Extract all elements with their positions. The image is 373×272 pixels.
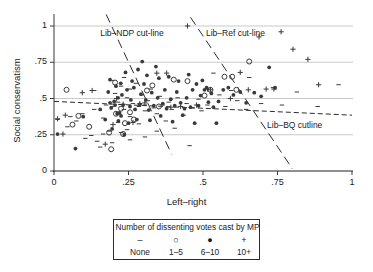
marker-dot xyxy=(119,81,123,85)
marker-dot xyxy=(191,88,195,92)
marker-dot xyxy=(119,114,123,118)
marker-dot xyxy=(147,108,151,112)
marker-dot xyxy=(252,91,256,95)
marker-dot xyxy=(193,121,197,125)
marker-dot xyxy=(112,100,116,104)
marker-dot xyxy=(244,101,248,105)
marker-dot xyxy=(113,103,117,107)
marker-dot xyxy=(185,96,189,100)
marker-dot xyxy=(163,88,167,92)
marker-dot xyxy=(169,97,173,101)
marker-dot xyxy=(108,78,112,82)
legend-entry: ●6–10 xyxy=(192,234,228,258)
marker-dot xyxy=(56,132,60,136)
marker-dot xyxy=(122,133,126,137)
marker-dot xyxy=(98,107,102,111)
reference-line-label: Lib–Ref cut-line xyxy=(206,28,265,38)
x-tick-label: .25 xyxy=(114,177,144,187)
marker-dot xyxy=(128,105,132,109)
x-tick-label: .75 xyxy=(263,177,293,187)
marker-dot xyxy=(129,98,133,102)
legend-symbol: ● xyxy=(192,234,228,246)
axis-ticks xyxy=(50,26,352,175)
marker-dot xyxy=(154,65,158,69)
reference-line-label: Lib–BQ cutline xyxy=(267,120,322,130)
marker-dot xyxy=(157,76,161,80)
marker-dot xyxy=(217,100,221,104)
y-tick-label: 1 xyxy=(21,20,47,30)
x-tick-label: .5 xyxy=(188,177,218,187)
y-tick-label: 0 xyxy=(21,165,47,175)
legend: Number of dissenting votes cast by MP –N… xyxy=(113,219,260,260)
marker-dot xyxy=(114,84,118,88)
marker-circle xyxy=(185,79,190,84)
y-tick-label: .75 xyxy=(21,56,47,66)
marker-dot xyxy=(215,121,219,125)
marker-dot xyxy=(175,90,179,94)
marker-dot xyxy=(259,94,263,98)
marker-dot xyxy=(201,78,205,82)
y-axis-title: Social conservatism xyxy=(11,41,22,161)
marker-dot xyxy=(125,88,129,92)
marker-circle xyxy=(64,87,69,92)
marker-dot xyxy=(267,65,271,69)
marker-dot xyxy=(238,90,242,94)
marker-dot xyxy=(116,119,120,123)
legend-title: Number of dissenting votes cast by MP xyxy=(114,222,261,232)
marker-dot xyxy=(152,104,156,108)
marker-circle xyxy=(234,87,239,92)
marker-dot xyxy=(161,102,165,106)
marker-dot xyxy=(136,68,140,72)
y-tick-label: .25 xyxy=(21,129,47,139)
marker-dot xyxy=(197,104,201,108)
marker-circle xyxy=(171,77,176,82)
marker-dot xyxy=(140,60,144,64)
marker-dot xyxy=(231,93,235,97)
scatter-plot-figure: Social conservatism Left–right 0.25.5.75… xyxy=(0,0,373,272)
marker-circle xyxy=(247,59,252,64)
x-axis-title: Left–right xyxy=(0,196,373,207)
data-markers xyxy=(55,23,341,151)
legend-symbol: – xyxy=(122,234,158,246)
marker-dot xyxy=(156,96,160,100)
marker-dot xyxy=(171,120,175,124)
y-tick-label: .5 xyxy=(21,93,47,103)
marker-circle xyxy=(113,80,118,85)
marker-dot xyxy=(148,118,152,122)
marker-circle xyxy=(144,88,149,93)
marker-dot xyxy=(181,113,185,117)
marker-dot xyxy=(195,82,199,86)
marker-circle xyxy=(127,110,132,115)
legend-entry: +10+ xyxy=(226,234,262,258)
marker-circle xyxy=(70,122,75,127)
legend-label: 10+ xyxy=(226,246,262,258)
marker-dot xyxy=(108,101,112,105)
marker-dot xyxy=(145,73,149,77)
marker-dot xyxy=(177,79,181,83)
reference-lines xyxy=(54,14,352,168)
marker-dot xyxy=(150,91,154,95)
marker-dot xyxy=(189,105,193,109)
marker-dot xyxy=(183,107,187,111)
marker-dot xyxy=(130,79,134,83)
x-tick-label: 1 xyxy=(337,177,367,187)
marker-circle xyxy=(222,74,227,79)
legend-symbol: ○ xyxy=(158,234,194,246)
marker-circle xyxy=(202,93,207,98)
marker-dot xyxy=(120,93,124,97)
legend-symbol: + xyxy=(226,234,262,246)
marker-circle xyxy=(109,147,114,152)
marker-dot xyxy=(133,107,137,111)
marker-dot xyxy=(165,107,169,111)
legend-label: 6–10 xyxy=(192,246,228,258)
legend-label: 1–5 xyxy=(158,246,194,258)
marker-circle xyxy=(150,83,155,88)
marker-dot xyxy=(139,92,143,96)
marker-dot xyxy=(103,118,107,122)
marker-dot xyxy=(226,86,230,90)
marker-dot xyxy=(206,100,210,104)
marker-circle xyxy=(76,113,81,118)
marker-dot xyxy=(142,82,146,86)
marker-dot xyxy=(124,71,128,75)
marker-dot xyxy=(187,73,191,77)
